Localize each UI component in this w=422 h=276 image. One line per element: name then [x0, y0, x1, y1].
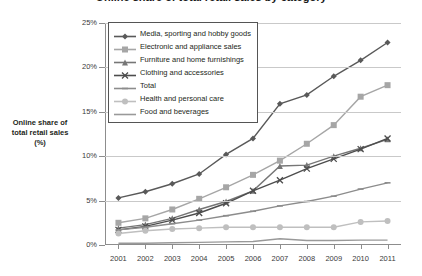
legend-item-label: Furniture and home furnishings: [140, 54, 244, 65]
y-axis-tick-label: 25%: [69, 18, 97, 27]
series-line: [118, 139, 387, 228]
x-axis-tick: [280, 245, 281, 249]
legend-marker-dash-icon: [113, 80, 137, 91]
legend-item[interactable]: Food and beverages: [113, 105, 251, 118]
x-axis-tick: [253, 245, 254, 249]
legend-item[interactable]: Electronic and appliance sales: [113, 40, 251, 53]
data-point-marker: [331, 224, 337, 230]
legend-item[interactable]: Media, sporting and hobby goods: [113, 27, 251, 40]
legend-marker-square-icon: [113, 41, 137, 52]
legend-marker-triangle-icon: [113, 54, 137, 65]
x-axis-tick: [226, 245, 227, 249]
legend-marker-circle-icon: [113, 93, 137, 104]
data-point-marker: [385, 82, 391, 88]
legend-item[interactable]: Furniture and home furnishings: [113, 53, 251, 66]
data-point-marker: [304, 141, 310, 147]
data-point-marker: [196, 225, 202, 231]
x-axis-tick: [307, 245, 308, 249]
series-line: [118, 239, 387, 243]
data-point-marker: [331, 122, 337, 128]
y-axis-tick: [99, 112, 105, 113]
data-point-marker: [122, 34, 128, 40]
data-point-marker: [122, 47, 128, 53]
y-axis-tick-label: 10%: [69, 151, 97, 160]
gridline: [105, 201, 401, 202]
y-axis-tick-label: 5%: [69, 196, 97, 205]
x-axis-tick: [388, 245, 389, 249]
x-axis-tick: [145, 245, 146, 249]
x-axis-tick: [199, 245, 200, 249]
data-point-marker: [304, 224, 310, 230]
x-axis-tick-label: 2011: [368, 254, 408, 263]
series-2: [115, 136, 390, 231]
y-axis-tick: [99, 245, 105, 246]
data-point-marker: [223, 224, 229, 230]
data-point-marker: [223, 184, 229, 190]
data-point-marker: [142, 215, 148, 221]
legend-item-label: Food and beverages: [140, 106, 209, 117]
legend-marker-cross-icon: [113, 67, 137, 78]
x-axis-tick: [172, 245, 173, 249]
y-axis-tick-label: 0%: [69, 240, 97, 249]
y-axis-label: Online share of total retail sales (%): [2, 118, 78, 148]
data-point-marker: [169, 226, 175, 232]
legend-item[interactable]: Health and personal care: [113, 92, 251, 105]
series-6: [118, 239, 387, 243]
data-point-marker: [250, 224, 256, 230]
data-point-marker: [142, 228, 148, 234]
legend-item-label: Total: [140, 80, 156, 91]
x-axis-tick: [361, 245, 362, 249]
data-point-marker: [277, 158, 283, 164]
data-point-marker: [277, 177, 283, 183]
data-point-marker: [358, 219, 364, 225]
data-point-marker: [385, 218, 391, 224]
y-axis-tick: [99, 67, 105, 68]
series-5: [115, 218, 390, 236]
data-point-marker: [115, 220, 121, 226]
x-axis-tick: [118, 245, 119, 249]
data-point-marker: [169, 181, 175, 187]
data-point-marker: [115, 230, 121, 236]
data-point-marker: [250, 172, 256, 178]
chart-legend: Media, sporting and hobby goodsElectroni…: [108, 22, 258, 123]
gridline: [105, 156, 401, 157]
y-axis-tick: [99, 156, 105, 157]
y-axis-tick: [99, 23, 105, 24]
data-point-marker: [358, 94, 364, 100]
data-point-marker: [169, 206, 175, 212]
chart-title: Online share of total retail sales by ca…: [0, 0, 422, 3]
y-axis-tick-label: 15%: [69, 107, 97, 116]
data-point-marker: [122, 99, 128, 105]
legend-marker-diamond-icon: [113, 28, 137, 39]
legend-item-label: Electronic and appliance sales: [140, 41, 241, 52]
y-axis-tick: [99, 201, 105, 202]
legend-item[interactable]: Total: [113, 79, 251, 92]
legend-item-label: Media, sporting and hobby goods: [140, 28, 251, 39]
series-3: [115, 135, 390, 232]
legend-item-label: Clothing and accessories: [140, 67, 224, 78]
x-axis-tick: [334, 245, 335, 249]
legend-item[interactable]: Clothing and accessories: [113, 66, 251, 79]
data-point-marker: [142, 189, 148, 195]
legend-marker-none-icon: [113, 106, 137, 117]
legend-item-label: Health and personal care: [140, 93, 224, 104]
y-axis-tick-label: 20%: [69, 62, 97, 71]
y-axis-label-line-3: (%): [2, 138, 78, 148]
y-axis-label-line-2: total retail sales: [2, 128, 78, 138]
chart-container: Online share of total retail sales by ca…: [0, 0, 422, 276]
y-axis-label-line-1: Online share of: [2, 118, 78, 128]
data-point-marker: [277, 224, 283, 230]
